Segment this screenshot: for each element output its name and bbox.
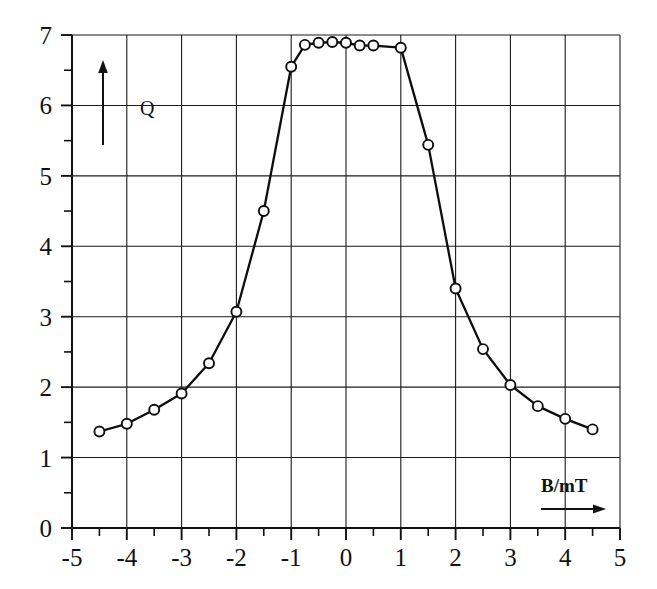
data-point-marker xyxy=(327,37,337,47)
data-point-marker xyxy=(300,40,310,50)
data-point-marker xyxy=(177,388,187,398)
data-point-marker xyxy=(149,405,159,415)
data-point-marker xyxy=(396,43,406,53)
data-point-marker xyxy=(122,419,132,429)
data-point-marker xyxy=(341,38,351,48)
data-point-marker xyxy=(94,427,104,437)
y-tick-label: 4 xyxy=(40,233,53,260)
x-tick-label: -4 xyxy=(116,544,137,571)
x-axis-symbol-label: B/mT xyxy=(541,475,588,496)
chart-background xyxy=(0,0,657,589)
data-point-marker xyxy=(314,38,324,48)
y-tick-label: 2 xyxy=(40,374,53,401)
data-point-marker xyxy=(423,140,433,150)
y-tick-label: 1 xyxy=(40,445,53,472)
y-tick-label: 7 xyxy=(40,22,53,49)
x-tick-label: 1 xyxy=(395,544,408,571)
y-tick-label: 3 xyxy=(40,304,53,331)
x-tick-label: -3 xyxy=(171,544,192,571)
data-point-marker xyxy=(204,358,214,368)
data-point-marker xyxy=(478,344,488,354)
data-point-marker xyxy=(451,284,461,294)
x-tick-label: 5 xyxy=(614,544,627,571)
data-point-marker xyxy=(259,206,269,216)
data-point-marker xyxy=(560,414,570,424)
data-point-marker xyxy=(588,424,598,434)
x-tick-label: -1 xyxy=(281,544,302,571)
chart-figure: -5-4-3-2-1012345 01234567 Q B/mT xyxy=(0,0,657,589)
data-point-marker xyxy=(355,41,365,51)
y-axis-symbol-label: Q xyxy=(140,97,155,119)
y-tick-label: 6 xyxy=(40,92,53,119)
y-tick-label: 5 xyxy=(40,163,53,190)
line-chart-svg: -5-4-3-2-1012345 01234567 Q B/mT xyxy=(0,0,657,589)
data-point-marker xyxy=(368,41,378,51)
x-tick-label: -5 xyxy=(62,544,83,571)
x-tick-label: 4 xyxy=(559,544,572,571)
data-point-marker xyxy=(533,401,543,411)
x-tick-label: -2 xyxy=(226,544,247,571)
x-tick-label: 0 xyxy=(340,544,353,571)
data-point-marker xyxy=(286,62,296,72)
data-point-marker xyxy=(505,380,515,390)
x-tick-label: 3 xyxy=(504,544,517,571)
data-point-marker xyxy=(231,307,241,317)
x-tick-label: 2 xyxy=(449,544,462,571)
y-tick-label: 0 xyxy=(40,515,53,542)
